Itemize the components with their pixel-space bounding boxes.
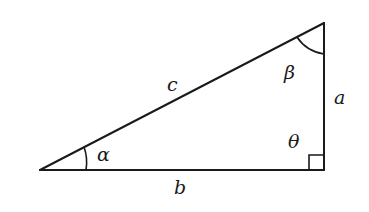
label-c: c bbox=[167, 73, 178, 95]
hypotenuse-c bbox=[40, 23, 324, 170]
right-triangle-diagram: c β a θ α b bbox=[0, 0, 369, 212]
label-alpha: α bbox=[97, 143, 110, 165]
alpha-arc bbox=[84, 147, 87, 170]
right-angle-marker bbox=[309, 155, 324, 170]
label-b: b bbox=[174, 176, 186, 198]
label-theta: θ bbox=[288, 130, 300, 152]
beta-arc bbox=[297, 37, 324, 54]
label-beta: β bbox=[283, 61, 295, 83]
label-a: a bbox=[334, 86, 345, 108]
